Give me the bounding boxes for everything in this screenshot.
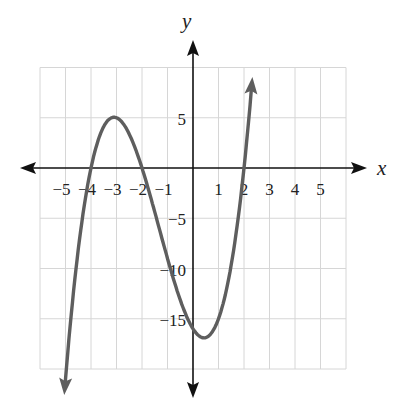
x-tick-label: −3 <box>103 180 121 199</box>
x-tick-label: −5 <box>52 180 70 199</box>
curve <box>59 77 257 395</box>
x-tick-label: 5 <box>316 180 325 199</box>
x-tick-label: 1 <box>214 180 223 199</box>
cubic-function-graph: x y −5−4−3−2−112345 5−5−10−15 <box>0 0 402 417</box>
y-tick-labels: 5−5−10−15 <box>159 110 186 330</box>
x-tick-labels: −5−4−3−2−112345 <box>52 180 324 199</box>
y-tick-label: −15 <box>159 311 186 330</box>
x-tick-label: 4 <box>291 180 300 199</box>
y-axis-label: y <box>180 9 192 33</box>
x-tick-label: 3 <box>265 180 274 199</box>
x-axis-label: x <box>376 156 387 180</box>
y-tick-label: 5 <box>178 110 187 129</box>
x-tick-label: −1 <box>154 180 172 199</box>
function-curve <box>65 91 251 380</box>
x-tick-label: −2 <box>129 180 147 199</box>
y-tick-label: −5 <box>168 210 186 229</box>
